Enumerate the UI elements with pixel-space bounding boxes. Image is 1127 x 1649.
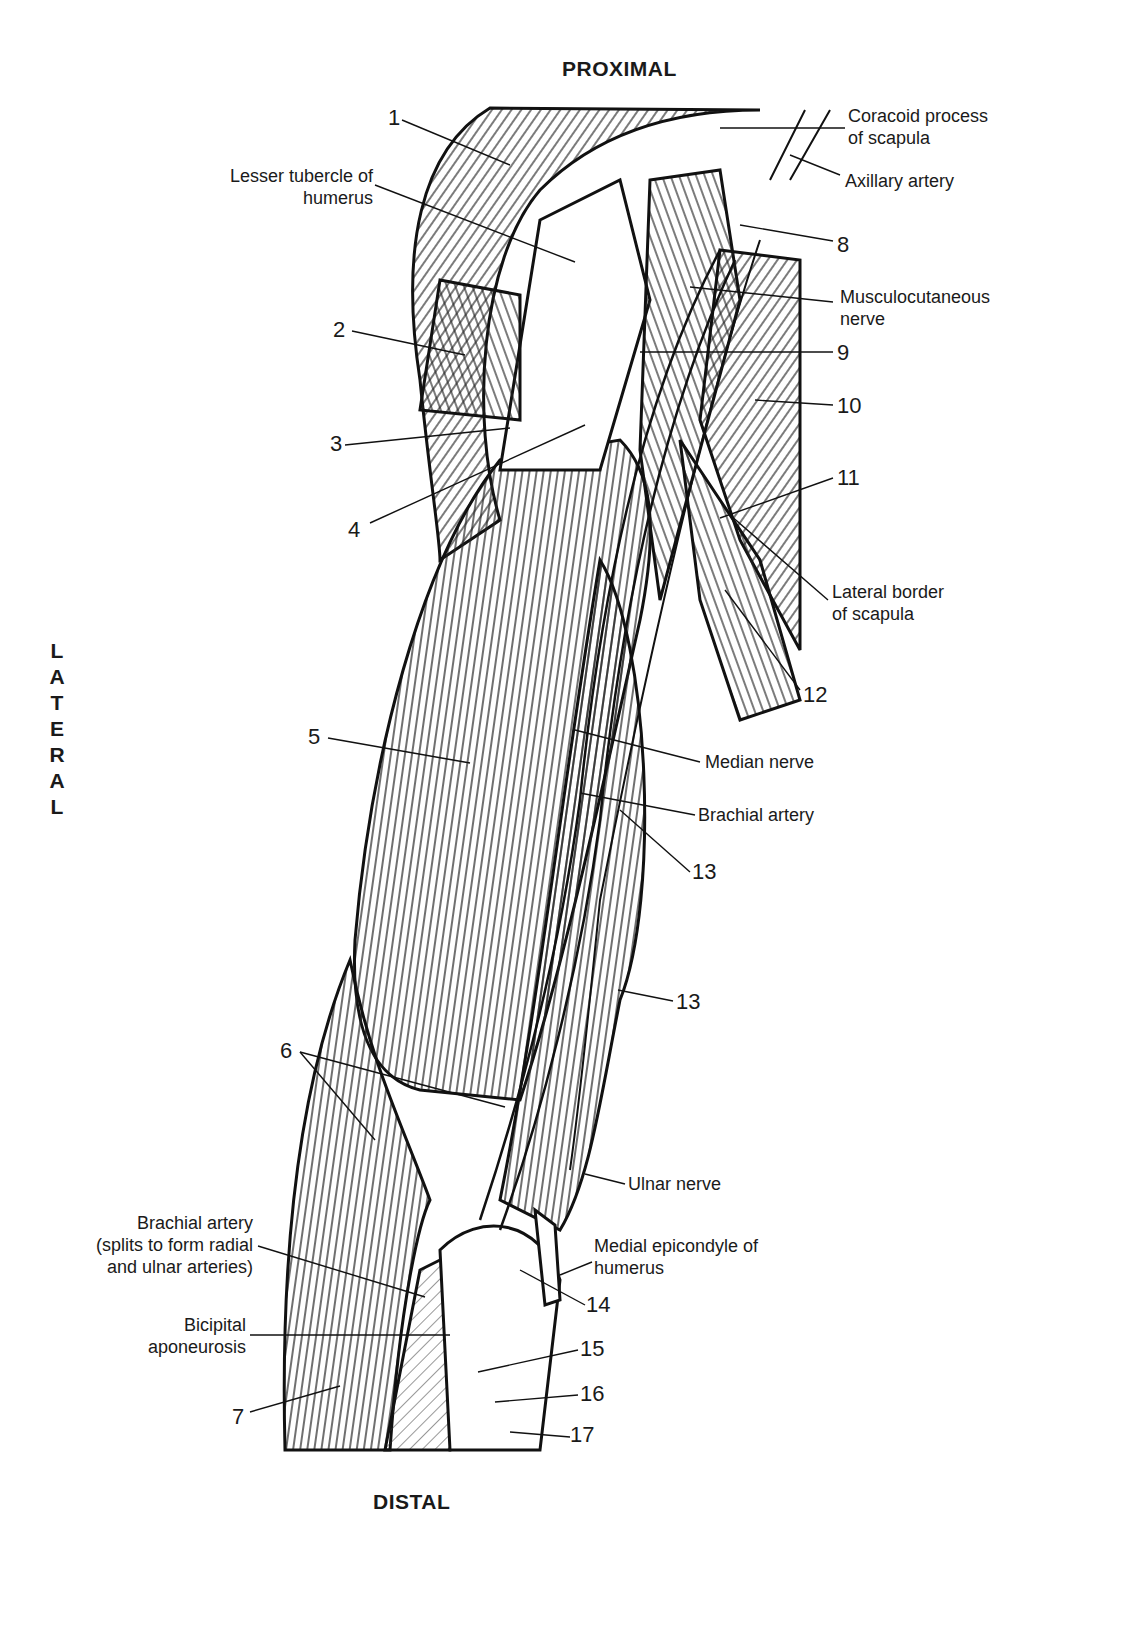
label-number-12: 12 — [803, 683, 827, 707]
label-lesser-tubercle: Lesser tubercle of humerus — [210, 165, 373, 209]
label-brachial-artery-split: Brachial artery (splits to form radial a… — [50, 1212, 253, 1278]
label-number-1: 1 — [388, 106, 400, 130]
label-lateral-border-scapula: Lateral border of scapula — [832, 581, 944, 625]
label-number-3: 3 — [330, 432, 342, 456]
label-line: Brachial artery — [50, 1212, 253, 1234]
label-line: Bicipital — [100, 1314, 246, 1336]
label-number-13-upper: 13 — [692, 860, 716, 884]
label-line: of scapula — [848, 127, 988, 149]
label-number-7: 7 — [232, 1405, 244, 1429]
label-number-6: 6 — [280, 1039, 292, 1063]
label-number-9: 9 — [837, 341, 849, 365]
label-number-2: 2 — [333, 318, 345, 342]
label-line: nerve — [840, 308, 990, 330]
label-bicipital-aponeurosis: Bicipital aponeurosis — [100, 1314, 246, 1358]
label-line: humerus — [594, 1257, 758, 1279]
label-line: Musculocutaneous — [840, 286, 990, 308]
label-line: of scapula — [832, 603, 944, 625]
label-number-8: 8 — [837, 233, 849, 257]
label-line: Lateral border — [832, 581, 944, 603]
label-ulnar-nerve: Ulnar nerve — [628, 1173, 721, 1195]
label-number-5: 5 — [308, 725, 320, 749]
label-line: Lesser tubercle of — [210, 165, 373, 187]
leader-lines — [0, 0, 1127, 1649]
label-musculocutaneous-nerve: Musculocutaneous nerve — [840, 286, 990, 330]
label-coracoid-process: Coracoid process of scapula — [848, 105, 988, 149]
label-brachial-artery: Brachial artery — [698, 804, 814, 826]
label-medial-epicondyle: Medial epicondyle of humerus — [594, 1235, 758, 1279]
label-number-16: 16 — [580, 1382, 604, 1406]
label-number-13-lower: 13 — [676, 990, 700, 1014]
label-number-17: 17 — [570, 1423, 594, 1447]
label-line: aponeurosis — [100, 1336, 246, 1358]
label-axillary-artery: Axillary artery — [845, 170, 954, 192]
label-line: and ulnar arteries) — [50, 1256, 253, 1278]
label-median-nerve: Median nerve — [705, 751, 814, 773]
label-number-11: 11 — [837, 466, 860, 490]
label-line: Coracoid process — [848, 105, 988, 127]
label-line: (splits to form radial — [50, 1234, 253, 1256]
label-number-14: 14 — [586, 1293, 610, 1317]
label-number-4: 4 — [348, 518, 360, 542]
label-line: humerus — [210, 187, 373, 209]
label-line: Medial epicondyle of — [594, 1235, 758, 1257]
label-number-15: 15 — [580, 1337, 604, 1361]
label-number-10: 10 — [837, 394, 861, 418]
